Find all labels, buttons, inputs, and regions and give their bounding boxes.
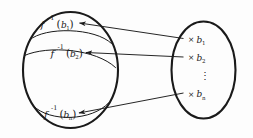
fiber-n-close-paren: ) <box>72 108 76 120</box>
arrow-b1 <box>80 23 184 39</box>
fiber-label-2: f -1 ( b 2 ) <box>50 43 83 61</box>
fiber-2-close-paren: ) <box>79 47 83 59</box>
fiber-1-open-paren: ( <box>57 18 61 30</box>
fiber-n-f: f <box>43 109 50 120</box>
math-diagram-figure: f -1 ( b 1 ) f -1 ( b 2 ) f -1 ( b n ) ×… <box>0 0 253 138</box>
fiber-2-f: f <box>50 48 57 59</box>
point-bn-marker-icon: × <box>188 90 194 99</box>
fiber-n-exponent: -1 <box>51 104 57 112</box>
fiber-1-close-paren: ) <box>70 18 74 30</box>
point-b1-sub: 1 <box>202 40 206 46</box>
fiber-2-exponent: -1 <box>58 43 64 51</box>
fiber-1-exponent: -1 <box>48 14 54 22</box>
diagram-canvas: f -1 ( b 1 ) f -1 ( b 2 ) f -1 ( b n ) ×… <box>0 0 253 138</box>
fiber-divider-1 <box>30 31 112 44</box>
arrow-bn <box>79 93 184 113</box>
codomain-point-bn: × b n <box>188 89 206 101</box>
codomain-point-b2: × b 2 <box>188 53 206 65</box>
point-bn-sub: n <box>202 95 206 101</box>
arrows-group <box>79 23 184 113</box>
arrow-b2 <box>86 53 184 58</box>
point-b2-marker-icon: × <box>188 53 194 62</box>
fiber-label-n: f -1 ( b n ) <box>43 104 76 122</box>
point-b2-sub: 2 <box>202 58 206 64</box>
point-b1-marker-icon: × <box>188 35 194 44</box>
codomain-point-b1: × b 1 <box>188 35 206 47</box>
vertical-ellipsis-icon: ⋮ <box>200 70 210 81</box>
